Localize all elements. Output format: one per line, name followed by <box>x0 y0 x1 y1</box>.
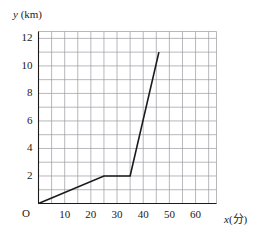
data-series-group <box>39 52 159 203</box>
axis-lines <box>39 32 217 204</box>
y-tick-label: 8 <box>11 86 33 98</box>
y-axis-title: y (km) <box>13 8 42 20</box>
x-tick-label: 20 <box>80 208 102 220</box>
x-tick-label: 60 <box>185 208 207 220</box>
y-tick-label: 10 <box>11 59 33 71</box>
series-line <box>39 52 159 203</box>
x-tick-label: 50 <box>158 208 180 220</box>
origin-label: O <box>22 207 30 219</box>
y-tick-label: 2 <box>11 169 33 181</box>
x-axis-title: x(分) <box>224 210 247 226</box>
y-axis-variable: y <box>13 8 18 20</box>
y-tick-label: 6 <box>11 114 33 126</box>
x-tick-label: 40 <box>132 208 154 220</box>
y-axis-unit: (km) <box>21 8 42 20</box>
grid-lines <box>39 32 217 204</box>
y-tick-label: 12 <box>11 31 33 43</box>
x-tick-label: 10 <box>54 208 76 220</box>
x-tick-label: 30 <box>106 208 128 220</box>
line-chart-figure: y (km) x(分) O 24681012 102030405060 <box>0 0 271 249</box>
y-tick-label: 4 <box>11 141 33 153</box>
x-axis-unit: (分) <box>229 213 247 225</box>
